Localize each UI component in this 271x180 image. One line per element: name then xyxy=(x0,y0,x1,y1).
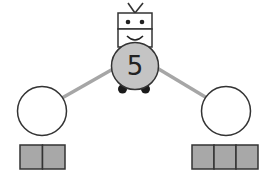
right-arm-connector xyxy=(157,68,207,98)
block xyxy=(20,145,43,169)
number-bond-diagram: 5 xyxy=(0,0,271,180)
right-blocks xyxy=(192,145,258,169)
right-part-circle[interactable] xyxy=(202,87,251,136)
block xyxy=(236,145,258,169)
left-blocks xyxy=(20,145,65,169)
whole-number: 5 xyxy=(127,51,144,81)
left-eye-icon xyxy=(126,20,131,25)
right-eye-icon xyxy=(140,20,145,25)
block xyxy=(192,145,214,169)
left-part-circle[interactable] xyxy=(18,87,67,136)
block xyxy=(214,145,236,169)
block xyxy=(43,145,66,169)
left-arm-connector xyxy=(62,69,113,98)
antenna-icon xyxy=(128,3,143,13)
